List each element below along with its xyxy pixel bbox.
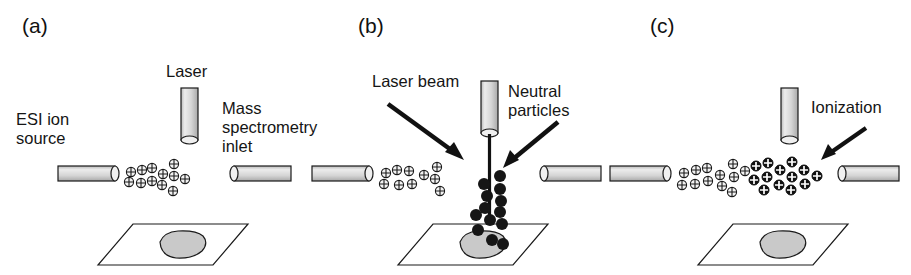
esi-source-tube xyxy=(610,166,671,181)
esi-source-tube xyxy=(312,166,373,181)
ion-particle xyxy=(432,162,441,171)
ion-particle xyxy=(168,186,177,195)
ion-particle xyxy=(679,168,688,177)
ion-particle xyxy=(419,170,428,179)
ionized-particle xyxy=(800,179,810,189)
ion-particle xyxy=(147,163,156,172)
ionized-particle xyxy=(775,165,785,175)
ion-particle xyxy=(394,180,403,189)
sample-spot xyxy=(160,231,206,258)
ion-particle xyxy=(381,168,390,177)
ion-plume xyxy=(379,162,444,195)
ion-particle xyxy=(137,165,146,174)
ion-particle xyxy=(169,171,178,180)
ionized-particle xyxy=(787,157,797,167)
neutral-particle xyxy=(472,224,484,236)
laser-cylinder xyxy=(181,88,198,144)
ion-particle xyxy=(136,178,145,187)
ion-plume xyxy=(677,159,749,196)
panel-b-graphics xyxy=(304,0,604,275)
neutral-particle xyxy=(481,190,493,202)
ion-particle xyxy=(728,159,737,168)
neutral-particle xyxy=(496,218,508,230)
neutral-particle xyxy=(497,238,509,250)
ion-particle xyxy=(717,181,726,190)
ion-particle xyxy=(435,186,444,195)
panel-a: (a) Laser ESI ion source Mass spectromet… xyxy=(0,0,304,275)
panel-c: (c) Ionization xyxy=(604,0,911,275)
ms-inlet-tube xyxy=(540,166,601,181)
panel-b: (b) Laser beam Neutral particles xyxy=(304,0,604,275)
ion-particle xyxy=(677,180,686,189)
neutral-particle xyxy=(486,234,498,246)
laser-cylinder xyxy=(481,81,498,137)
ionized-particle xyxy=(749,175,759,185)
ion-particle xyxy=(729,172,738,181)
ion-particle xyxy=(379,179,388,188)
ionized-particle xyxy=(786,185,796,195)
figure-root: (a) Laser ESI ion source Mass spectromet… xyxy=(0,0,911,275)
ion-particle xyxy=(404,166,413,175)
ionized-particle xyxy=(751,161,761,171)
panel-c-graphics xyxy=(604,0,911,275)
ion-particle xyxy=(169,159,178,168)
ion-particle xyxy=(690,179,699,188)
ion-particle xyxy=(147,176,156,185)
ion-particle xyxy=(691,165,700,174)
neutral-particle xyxy=(478,178,490,190)
laser-cylinder xyxy=(781,88,798,144)
ion-particle xyxy=(702,163,711,172)
ion-particle xyxy=(392,165,401,174)
ms-inlet-tube xyxy=(230,166,291,181)
neutral-particle xyxy=(494,183,506,195)
ion-particle xyxy=(124,177,133,186)
ionization-arrow xyxy=(821,128,866,160)
ionized-particle xyxy=(759,185,769,195)
neutral-particles-arrow xyxy=(503,122,558,168)
esi-source-tube xyxy=(58,166,119,181)
neutral-particle xyxy=(484,214,496,226)
ion-plume xyxy=(124,159,189,195)
ionized-particle xyxy=(812,171,822,181)
ion-particle xyxy=(180,174,189,183)
neutral-particle xyxy=(470,209,482,221)
ionized-particle xyxy=(763,158,773,168)
ion-particle xyxy=(727,187,736,196)
ion-particle xyxy=(430,174,439,183)
neutral-particle xyxy=(494,170,506,182)
ion-particle xyxy=(740,166,749,175)
sample-spot xyxy=(760,231,806,258)
ionized-particle xyxy=(787,172,797,182)
ion-particle xyxy=(715,170,724,179)
ion-particle xyxy=(157,180,166,189)
ion-particle xyxy=(126,167,135,176)
ion-particle xyxy=(407,179,416,188)
ion-particle xyxy=(703,176,712,185)
laser-beam-arrow xyxy=(388,104,464,160)
ionized-particle xyxy=(762,172,772,182)
panel-a-graphics xyxy=(0,0,304,275)
ionized-particles xyxy=(749,157,822,195)
ionized-particle xyxy=(774,180,784,190)
neutral-particle xyxy=(494,206,506,218)
ion-particle xyxy=(158,169,167,178)
ionized-particle xyxy=(799,165,809,175)
neutral-particle xyxy=(495,195,507,207)
ms-inlet-tube xyxy=(838,166,899,181)
